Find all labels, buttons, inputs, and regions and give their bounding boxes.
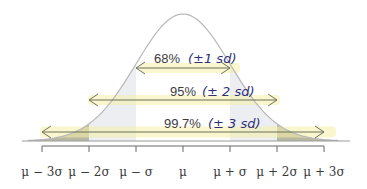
interval-1-note: (±1 sd) <box>188 51 236 66</box>
normal-distribution-diagram: μ − 3σμ − 2σμ − σμμ + σμ + 2σμ + 3σ 68% … <box>0 0 367 189</box>
axis-tick-label: μ − 2σ <box>68 165 109 179</box>
axis-tick-label: μ − σ <box>119 165 153 179</box>
axis-tick-label: μ − 3σ <box>21 165 62 179</box>
interval-2-percent: 95% <box>170 84 196 99</box>
axis-tick-label: μ + 2σ <box>256 165 297 179</box>
sd-axis: μ − 3σμ − 2σμ − σμμ + σμ + 2σμ + 3σ <box>21 146 344 179</box>
interval-1-percent: 68% <box>154 51 180 66</box>
axis-tick-label: μ + 3σ <box>303 165 344 179</box>
interval-2-note: (± 2 sd) <box>202 84 255 99</box>
axis-tick-label: μ + σ <box>213 165 247 179</box>
axis-tick-label: μ <box>179 165 187 179</box>
interval-3-note: (± 3 sd) <box>208 116 261 131</box>
interval-3-percent: 99.7% <box>164 116 201 131</box>
